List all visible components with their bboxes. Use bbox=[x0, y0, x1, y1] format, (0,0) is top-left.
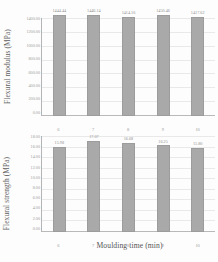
chart-panel-flexural-modulus: Flexural modulus (MPa) 1400.001200.00100… bbox=[0, 4, 218, 128]
bar[interactable] bbox=[191, 17, 204, 116]
bar-value-label: 15.98 bbox=[55, 141, 64, 146]
bar[interactable] bbox=[87, 141, 100, 232]
bar-item[interactable]: 15.80 bbox=[180, 136, 215, 232]
y-axis-title-strength: Flexural strength (MPa) bbox=[0, 128, 14, 258]
bar-item[interactable]: 1446.14 bbox=[77, 18, 112, 116]
bar-value-label: 16.25 bbox=[158, 140, 167, 145]
y-tick-label: 1200.00 bbox=[26, 30, 41, 34]
bar[interactable] bbox=[53, 15, 66, 116]
bar-item[interactable]: 1450.46 bbox=[146, 18, 181, 116]
bar-item[interactable]: 1417.62 bbox=[180, 18, 215, 116]
y-tick-label: 12.00 bbox=[31, 166, 41, 170]
figure-flexural-properties: Flexural modulus (MPa) 1400.001200.00100… bbox=[0, 0, 218, 262]
y-tick-label: 1000.00 bbox=[26, 44, 41, 48]
bar-item[interactable]: 16.68 bbox=[111, 136, 146, 232]
y-tick-label: 8.00 bbox=[33, 186, 41, 190]
bar-series-strength: 15.9817.0716.6816.2515.80 bbox=[42, 136, 215, 232]
bar-value-label: 15.80 bbox=[193, 142, 202, 147]
y-tick-label: 4.00 bbox=[33, 206, 41, 210]
bar-value-label: 17.07 bbox=[89, 135, 98, 140]
bar[interactable] bbox=[157, 145, 170, 232]
plot-area-strength: 15.9817.0716.6816.2515.80 bbox=[41, 136, 215, 232]
y-tick-label: 2.00 bbox=[33, 217, 41, 221]
y-tick-label: 10.00 bbox=[31, 176, 41, 180]
y-tick-label: 0.00 bbox=[33, 227, 41, 231]
y-tick-label: 14.00 bbox=[31, 155, 41, 159]
y-axis-title-strength-label: Flexural strength (MPa) bbox=[3, 156, 12, 229]
x-axis-title: Moulding time (min) bbox=[41, 241, 218, 250]
chart-panel-flexural-strength: Flexural strength (MPa) 18.0016.0014.001… bbox=[0, 128, 218, 258]
plot-area-modulus: 1444.441446.141414.161450.461417.62 bbox=[41, 18, 215, 116]
bar-value-label: 1446.14 bbox=[87, 9, 101, 14]
y-tick-label: 0.00 bbox=[33, 111, 41, 115]
bar-value-label: 1414.16 bbox=[122, 11, 136, 16]
bar-item[interactable]: 1414.16 bbox=[111, 18, 146, 116]
y-axis-title-modulus-label: Flexural modulus (MPa) bbox=[3, 29, 12, 104]
bar[interactable] bbox=[191, 148, 204, 232]
y-tick-label: 16.00 bbox=[31, 145, 41, 149]
y-axis-ticks-modulus: 1400.001200.001000.00800.00600.00400.002… bbox=[13, 18, 41, 116]
y-axis-title-modulus: Flexural modulus (MPa) bbox=[0, 4, 14, 128]
bar-item[interactable]: 15.98 bbox=[42, 136, 77, 232]
bar-value-label: 1417.62 bbox=[191, 11, 205, 16]
y-tick-label: 600.00 bbox=[28, 71, 41, 75]
bar[interactable] bbox=[157, 15, 170, 116]
bar-value-label: 1450.46 bbox=[156, 9, 170, 14]
y-tick-label: 18.00 bbox=[31, 135, 41, 139]
bar-item[interactable]: 17.07 bbox=[77, 136, 112, 232]
y-tick-label: 800.00 bbox=[28, 57, 41, 61]
bar-item[interactable]: 16.25 bbox=[146, 136, 181, 232]
y-tick-label: 200.00 bbox=[28, 97, 41, 101]
bar-series-modulus: 1444.441446.141414.161450.461417.62 bbox=[42, 18, 215, 116]
y-tick-label: 1400.00 bbox=[26, 17, 41, 21]
bar[interactable] bbox=[122, 143, 135, 232]
bar[interactable] bbox=[122, 17, 135, 116]
bar[interactable] bbox=[87, 15, 100, 116]
bar[interactable] bbox=[53, 147, 66, 232]
bar-value-label: 16.68 bbox=[124, 137, 133, 142]
y-tick-label: 6.00 bbox=[33, 196, 41, 200]
y-axis-ticks-strength: 18.0016.0014.0012.0010.008.006.004.002.0… bbox=[13, 136, 41, 232]
y-tick-label: 400.00 bbox=[28, 84, 41, 88]
bar-value-label: 1444.44 bbox=[52, 9, 66, 14]
bar-item[interactable]: 1444.44 bbox=[42, 18, 77, 116]
